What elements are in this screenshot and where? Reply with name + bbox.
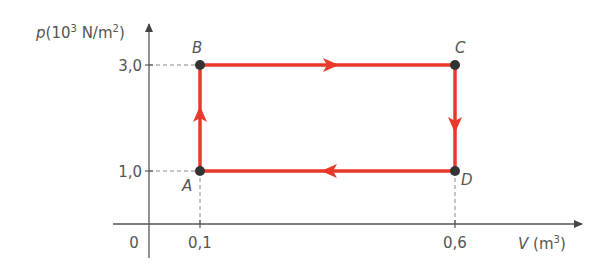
pv-diagram: B C A D 3,0 1,0 0 0,1 0,6 p(103 N/m2) V … [0, 0, 593, 268]
label-b: B [192, 39, 202, 57]
tick-label-x-06: 0,6 [443, 234, 467, 252]
label-c: C [455, 39, 466, 57]
point-a [195, 166, 205, 176]
point-c [450, 60, 460, 70]
label-a: A [181, 177, 192, 195]
point-b [195, 60, 205, 70]
point-d [450, 166, 460, 176]
y-axis-label: p(103 N/m2) [35, 23, 125, 42]
tick-label-x-0: 0 [129, 234, 139, 252]
guide-lines [149, 65, 455, 224]
label-d: D [461, 171, 473, 189]
tick-label-y-3: 3,0 [118, 57, 142, 75]
cycle-path [200, 65, 455, 171]
tick-label-y-1: 1,0 [118, 163, 142, 181]
x-axis-label: V (m3) [518, 234, 566, 253]
tick-label-x-01: 0,1 [188, 234, 212, 252]
